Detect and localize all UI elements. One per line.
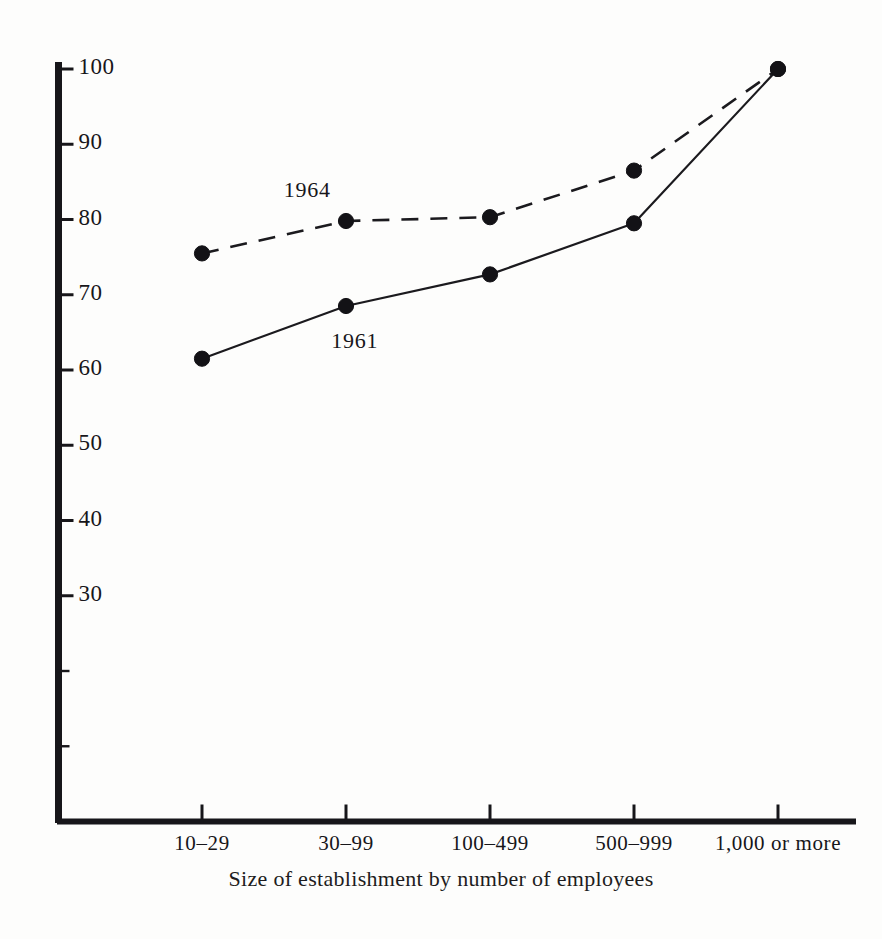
y-axis-tick-label: 80 — [79, 205, 103, 231]
data-point-marker — [626, 216, 641, 231]
series-annotation-1961: 1961 — [331, 328, 378, 354]
y-axis-tick-label: 30 — [79, 581, 103, 607]
x-axis-tick-label: 30–99 — [318, 831, 374, 856]
y-axis-tick-label: 100 — [79, 54, 115, 80]
y-axis-tick-label: 60 — [79, 355, 103, 381]
series-markers-group — [194, 61, 785, 366]
figure-container: 30405060708090100 10–2930–99100–499500–9… — [0, 0, 882, 939]
data-point-marker — [626, 163, 641, 178]
x-axis-tick-label: 10–29 — [174, 831, 230, 856]
data-point-marker — [194, 246, 209, 261]
data-point-marker — [338, 298, 353, 313]
x-axis-tick-label: 500–999 — [595, 831, 673, 856]
data-point-marker — [482, 267, 497, 282]
y-axis-tick-label: 90 — [79, 129, 103, 155]
y-axis-tick-label: 70 — [79, 280, 103, 306]
line-chart-plot — [0, 0, 882, 939]
axes-group — [57, 62, 856, 823]
y-axis-tick-label: 50 — [79, 430, 103, 456]
data-point-marker — [482, 210, 497, 225]
data-point-marker — [194, 351, 209, 366]
data-point-marker — [770, 61, 785, 76]
x-axis-tick-label: 100–499 — [451, 831, 529, 856]
data-point-marker — [338, 213, 353, 228]
y-axis-tick-label: 40 — [79, 506, 103, 532]
x-axis-title: Size of establishment by number of emplo… — [0, 866, 882, 892]
series-annotation-1964: 1964 — [284, 177, 331, 203]
x-axis-tick-label: 1,000 or more — [715, 831, 841, 856]
